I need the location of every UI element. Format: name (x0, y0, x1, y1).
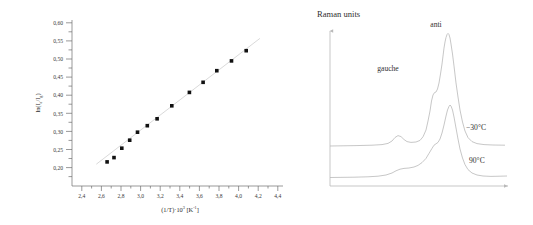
arrhenius-chart-panel: 0,20 0,25 0,30 0,35 0,40 0,45 0,50 0,55 … (0, 0, 310, 225)
data-point (112, 156, 116, 160)
trace-label-cold: −30°C (466, 123, 486, 132)
x-tick-label: 3,2 (157, 193, 164, 199)
x-tick-label: 4,2 (255, 193, 262, 199)
x-tick-label: 3,8 (216, 193, 223, 199)
data-point (215, 69, 219, 73)
gauche-peak-label: gauche (377, 64, 399, 73)
y-axis-title-tail: ) (34, 93, 42, 95)
y-tick-label: 0,25 (53, 147, 63, 153)
x-tick-label: 2,8 (118, 193, 125, 199)
data-point (136, 130, 140, 134)
data-point (146, 124, 150, 128)
data-point (105, 160, 109, 164)
raman-svg: Raman units anti gauche −30°C 90°C (310, 0, 533, 225)
x-axis-title-base: (1/T)·10 (161, 206, 183, 214)
data-point (170, 104, 174, 108)
x-axis-tick-labels: 2,4 2,6 2,8 3,0 3,2 3,4 3,6 3,8 4,0 4,2 … (78, 193, 281, 199)
data-point (188, 91, 192, 95)
svg-text:ln(Ia/Ig): ln(Ia/Ig) (34, 93, 43, 112)
arrhenius-svg: 0,20 0,25 0,30 0,35 0,40 0,45 0,50 0,55 … (0, 0, 310, 225)
data-point (128, 138, 132, 142)
data-point (230, 59, 234, 63)
data-point (155, 117, 159, 121)
anti-peak-label: anti (430, 20, 441, 29)
x-tick-label: 3,4 (176, 193, 183, 199)
x-tick-label: 4,4 (274, 193, 281, 199)
x-tick-label: 3,6 (196, 193, 203, 199)
y-tick-label: 0,30 (53, 129, 63, 135)
y-tick-label: 0,40 (53, 92, 63, 98)
y-tick-label: 0,55 (53, 38, 63, 44)
data-point (120, 146, 124, 150)
y-axis-tick-labels: 0,20 0,25 0,30 0,35 0,40 0,45 0,50 0,55 … (53, 20, 63, 171)
raman-chart-panel: Raman units anti gauche −30°C 90°C (310, 0, 533, 225)
x-tick-label: 3,0 (137, 193, 144, 199)
y-tick-label: 0,50 (53, 56, 63, 62)
y-tick-label: 0,45 (53, 74, 63, 80)
x-tick-label: 2,6 (98, 193, 105, 199)
data-point (244, 49, 248, 53)
y-tick-label: 0,20 (53, 165, 63, 171)
data-point-group (105, 49, 248, 164)
y-axis-title-base: ln(I (34, 103, 42, 112)
x-axis-title: (1/T)·103 [K-1] (161, 205, 199, 214)
trace-label-hot: 90°C (469, 156, 485, 165)
svg-text:(1/T)·103 [K-1]: (1/T)·103 [K-1] (161, 205, 199, 214)
y-axis-ticks (66, 23, 72, 177)
x-tick-label: 2,4 (78, 193, 85, 199)
x-axis-ticks (82, 186, 278, 191)
x-axis-title-tail: ] (197, 206, 199, 213)
data-point (201, 81, 205, 85)
figure-root: 0,20 0,25 0,30 0,35 0,40 0,45 0,50 0,55 … (0, 0, 533, 225)
raman-units-label: Raman units (317, 9, 361, 19)
linear-fit-line (96, 38, 260, 164)
x-tick-label: 4,0 (235, 193, 242, 199)
y-tick-label: 0,60 (53, 20, 63, 26)
y-tick-label: 0,35 (53, 111, 63, 117)
y-axis-title: ln(Ia/Ig) (34, 93, 43, 112)
